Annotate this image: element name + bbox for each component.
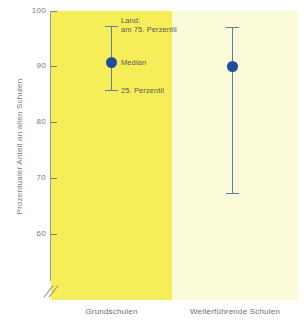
median-marker-grundschulen (106, 57, 117, 68)
y-tick-mark-80 (51, 122, 57, 123)
errorbar-line-weiterfuehrende (232, 27, 233, 193)
annotation-p25: 25. Perzentil (121, 86, 164, 96)
x-axis-label-grundschulen: Grundschulen (51, 307, 172, 317)
y-tick-label-100: 100 (20, 7, 46, 15)
y-tick-mark-90 (51, 66, 57, 67)
x-axis-label-weiterfuehrende-schulen: Weiterführende Schulen (172, 307, 298, 317)
axis-break-icon (41, 282, 63, 302)
y-axis-title: Prozentualer Anteil an allen Schulen (15, 62, 24, 232)
errorbar-cap-upper-weiterfuehrende (226, 27, 239, 28)
annotation-p75-line2: am 75. Perzentil (121, 25, 177, 35)
median-marker-weiterfuehrende (227, 61, 238, 72)
x-axis-line (51, 300, 298, 301)
annotation-median: Median (121, 58, 146, 68)
chart-container: 100 90 80 70 60 Prozentualer Anteil an a… (0, 0, 307, 328)
y-tick-label-60: 60 (20, 230, 46, 238)
errorbar-cap-lower-grundschulen (105, 90, 118, 91)
panel-weiterfuehrende-schulen (172, 11, 298, 300)
errorbar-cap-upper-grundschulen (105, 26, 118, 27)
y-tick-mark-60 (51, 234, 57, 235)
errorbar-cap-lower-weiterfuehrende (226, 193, 239, 194)
y-tick-mark-70 (51, 178, 57, 179)
y-tick-label-80: 80 (20, 118, 46, 126)
y-tick-label-70: 70 (20, 174, 46, 182)
y-axis-line (50, 11, 51, 281)
y-tick-label-90: 90 (20, 62, 46, 70)
y-tick-mark-100 (51, 11, 57, 12)
